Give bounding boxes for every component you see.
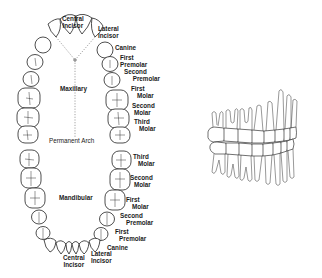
label-maxillary: Maxillary: [60, 86, 87, 93]
label-mand-first-premolar: First Premolar: [115, 229, 146, 242]
label-line: Molar: [132, 110, 155, 117]
lateral-view-illustration: [208, 90, 297, 186]
label-line: Premolar: [120, 220, 153, 227]
label-max-first-premolar: First Premolar: [120, 55, 144, 68]
label-line: Molar: [130, 182, 153, 189]
label-line: Molar: [131, 93, 154, 100]
label-max-lateral-incisor: Lateral Incisor: [98, 26, 119, 39]
label-line: Canine: [115, 45, 136, 52]
label-mand-first-molar: First Molar: [126, 197, 149, 210]
label-mand-third-molar: Third Molar: [133, 154, 155, 167]
label-mand-second-premolar: Second Premolar: [120, 213, 153, 226]
label-line: Incisor: [63, 262, 85, 269]
label-line: Incisor: [62, 23, 84, 30]
label-max-second-molar: Second Molar: [132, 103, 155, 116]
diagram-title: Permanent Arch: [49, 138, 94, 145]
label-line: Molar: [133, 161, 155, 168]
label-mandibular: Mandibular: [59, 195, 93, 202]
label-max-first-molar: First Molar: [131, 86, 154, 99]
label-line: Molar: [126, 204, 149, 211]
label-mand-second-molar: Second Molar: [130, 175, 153, 188]
label-max-canine: Canine: [115, 45, 136, 52]
label-line: Incisor: [91, 258, 112, 265]
label-max-central-incisor: Central Incisor: [62, 16, 84, 29]
label-line: Incisor: [98, 33, 119, 40]
label-max-third-molar: Third Molar: [134, 119, 156, 132]
label-line: Premolar: [124, 76, 160, 83]
label-mand-lateral-incisor: Lateral Incisor: [91, 251, 112, 264]
label-line: Molar: [134, 126, 156, 133]
label-mand-central-incisor: Central Incisor: [63, 255, 85, 268]
label-line: Premolar: [115, 236, 146, 243]
label-max-second-premolar: Second Premolar: [124, 69, 160, 82]
